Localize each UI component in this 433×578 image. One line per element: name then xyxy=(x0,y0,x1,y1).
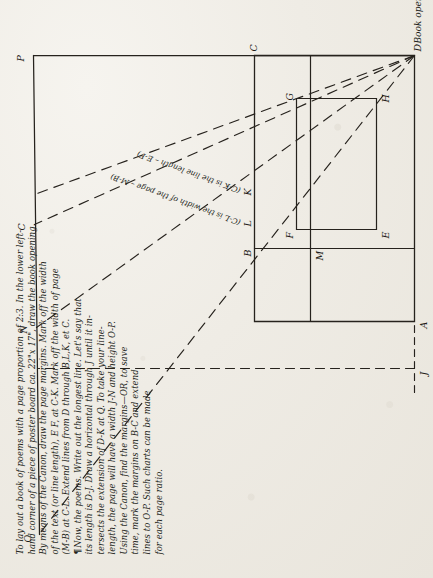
instruction-line: time, mark the margins on B-C and extend xyxy=(129,254,141,554)
point-label-J: J xyxy=(418,371,428,375)
point-label-F: F xyxy=(284,231,294,238)
rect-text-block xyxy=(296,98,376,229)
instruction-line: Now, the poems. Write out the longest li… xyxy=(72,298,82,547)
instruction-line: length, the page will have a width J-N a… xyxy=(106,254,118,554)
point-label-N: N xyxy=(18,325,28,333)
diagram-canvas: To lay out a book of poems with a page p… xyxy=(0,0,433,578)
instruction-line: of the text (or line length), E F, at C-… xyxy=(49,254,61,554)
point-label-C-bottom: C xyxy=(248,44,258,51)
dashed-ray-D-K xyxy=(34,55,414,194)
point-label-M: M xyxy=(314,250,324,260)
instruction-line: Using the Canon, find the margins—OR, to… xyxy=(118,254,130,554)
instruction-line: By means of the Canon, draw the page mar… xyxy=(37,254,49,554)
point-label-G: G xyxy=(284,92,294,100)
instruction-line: (M-B) at C-L. Extend lines from D throug… xyxy=(60,254,72,554)
instruction-line-with-pilcrow: ¶Now, the poems. Write out the longest l… xyxy=(72,254,84,554)
diagram-caption: Book opening with single page xyxy=(412,0,422,43)
point-label-O: O xyxy=(22,534,32,542)
point-label-B: B xyxy=(242,249,252,256)
instruction-line: To lay out a book of poems with a page p… xyxy=(14,254,26,554)
instruction-line: tersects the extension of D-K at Q. To t… xyxy=(95,254,107,554)
instruction-line: lines to O-P. Such charts can be made xyxy=(141,390,151,554)
point-label-C-top: C xyxy=(16,223,26,230)
instruction-line: hand corner of a piece of poster board c… xyxy=(26,254,38,554)
point-label-D: D xyxy=(412,43,422,51)
instruction-line: its length is D-J. Draw a horizontal thr… xyxy=(83,254,95,554)
instruction-text: To lay out a book of poems with a page p… xyxy=(14,254,164,554)
instruction-line-with-pilcrow: lines to O-P. Such charts can be made xyxy=(141,254,153,554)
point-label-H: H xyxy=(380,94,390,102)
instruction-line: for each page ratio. xyxy=(153,254,165,554)
dashed-ray-D-L xyxy=(34,55,414,224)
point-label-K: K xyxy=(242,188,252,195)
point-label-E: E xyxy=(380,231,390,238)
point-label-A: A xyxy=(418,321,428,328)
pilcrow-icon: ¶ xyxy=(72,547,82,554)
paper-sheet: To lay out a book of poems with a page p… xyxy=(0,0,433,578)
point-label-P: P xyxy=(15,55,25,61)
point-label-L: L xyxy=(242,220,252,226)
